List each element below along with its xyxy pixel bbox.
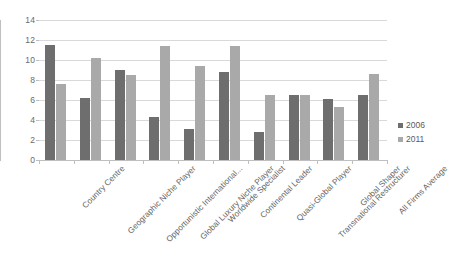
bar-2011 — [126, 75, 136, 160]
bar-2011 — [369, 74, 379, 160]
y-axis-tick-label: 12 — [1, 36, 35, 45]
bar-2006 — [184, 129, 194, 160]
y-axis-tick-mark — [36, 80, 39, 81]
legend-item-2006[interactable]: 2006 — [398, 118, 444, 132]
bar-2006 — [115, 70, 125, 160]
y-axis: 02468101214 — [0, 20, 35, 160]
bar-2011 — [160, 46, 170, 160]
x-axis-tick-mark — [109, 160, 110, 164]
y-axis-tick-label: 2 — [1, 136, 35, 145]
x-axis-tick-mark — [39, 160, 40, 164]
legend-swatch-icon — [398, 123, 403, 128]
bar-2006 — [149, 117, 159, 160]
bar-2011 — [56, 84, 66, 160]
x-axis-tick-mark — [283, 160, 284, 164]
x-axis-tick-mark — [143, 160, 144, 164]
bar-group — [352, 20, 387, 160]
x-axis-tick-mark — [248, 160, 249, 164]
y-axis-tick-mark — [36, 40, 39, 41]
bar-group — [74, 20, 109, 160]
bar-group — [283, 20, 318, 160]
x-axis-tick-mark — [387, 160, 388, 164]
legend-item-2011[interactable]: 2011 — [398, 132, 444, 146]
y-axis-tick-label: 10 — [1, 56, 35, 65]
bar-2006 — [358, 95, 368, 160]
bar-2006 — [219, 72, 229, 160]
y-axis-tick-label: 0 — [1, 156, 35, 165]
y-axis-tick-mark — [36, 120, 39, 121]
bar-group — [39, 20, 74, 160]
bar-group — [109, 20, 144, 160]
bar-2011 — [300, 95, 310, 160]
bar-2006 — [80, 98, 90, 160]
bar-group — [317, 20, 352, 160]
y-axis-tick-mark — [36, 100, 39, 101]
x-axis-tick-mark — [317, 160, 318, 164]
bar-2011 — [195, 66, 205, 160]
x-axis-tick-mark — [74, 160, 75, 164]
bar-group — [178, 20, 213, 160]
x-axis-tick-mark — [352, 160, 353, 164]
x-axis-category-label: Country Centre — [81, 164, 127, 210]
y-axis-tick-mark — [36, 140, 39, 141]
y-axis-tick-label: 6 — [1, 96, 35, 105]
y-axis-tick-mark — [36, 60, 39, 61]
y-axis-tick-mark — [36, 20, 39, 21]
bar-2011 — [265, 95, 275, 160]
bar-2011 — [91, 58, 101, 160]
bar-2006 — [289, 95, 299, 160]
legend-swatch-icon — [398, 137, 403, 142]
bar-2006 — [323, 99, 333, 160]
chart-legend: 20062011 — [398, 118, 444, 146]
y-axis-tick-label: 4 — [1, 116, 35, 125]
x-axis-tick-mark — [178, 160, 179, 164]
y-axis-tick-label: 14 — [1, 16, 35, 25]
bar-2011 — [334, 107, 344, 160]
legend-label: 2011 — [406, 135, 424, 144]
y-axis-tick-label: 8 — [1, 76, 35, 85]
bar-group — [213, 20, 248, 160]
x-axis-labels: Country CentreGeographic Niche PlayerOpp… — [39, 164, 387, 272]
bar-group — [248, 20, 283, 160]
bar-group — [143, 20, 178, 160]
bar-2006 — [45, 45, 55, 160]
bar-2006 — [254, 132, 264, 160]
x-axis-tick-mark — [213, 160, 214, 164]
bar-2011 — [230, 46, 240, 160]
plot-area — [39, 20, 387, 160]
legend-label: 2006 — [406, 121, 425, 130]
y-axis-line — [0, 20, 1, 161]
